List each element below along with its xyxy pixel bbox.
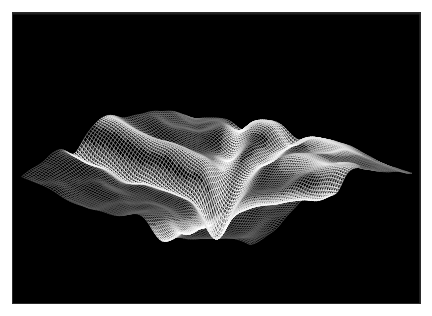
screenshot-page [0,0,432,316]
wireframe-plot-area [13,13,420,303]
terrain-wireframe-canvas [13,13,420,303]
plot-right-edge [419,13,420,303]
